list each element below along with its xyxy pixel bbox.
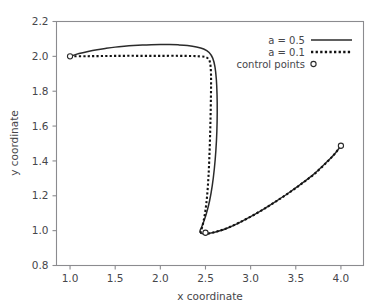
control-point-1: [67, 54, 72, 59]
y-tick-label-2.0: 2.0: [32, 50, 49, 62]
y-tick-label-1.4: 1.4: [32, 155, 49, 167]
x-tick-label-2.5: 2.5: [197, 272, 214, 284]
y-tick-label-2.2: 2.2: [32, 15, 49, 27]
x-axis-ticks: [70, 266, 341, 270]
legend-label-1: a = 0.5: [268, 35, 305, 46]
y-tick-label-1.6: 1.6: [32, 120, 49, 132]
x-tick-label-4.0: 4.0: [333, 272, 350, 284]
chart-figure: 1.01.52.02.53.03.54.0 0.81.01.21.41.61.8…: [0, 0, 380, 308]
y-tick-label-1.8: 1.8: [32, 85, 49, 97]
chart-legend: a = 0.5a = 0.1control points: [236, 35, 352, 70]
data-series-layer: [70, 44, 341, 233]
x-axis-title: x coordinate: [177, 290, 243, 302]
legend-label-2: a = 0.1: [268, 47, 305, 58]
control-points-layer: [67, 54, 343, 236]
control-point-3: [338, 143, 343, 148]
y-tick-label-1.2: 1.2: [32, 189, 49, 201]
legend-swatch-control-point-marker: [311, 61, 316, 66]
y-axis-tick-labels: 0.81.01.21.41.61.82.02.2: [32, 15, 49, 271]
x-tick-label-3.5: 3.5: [287, 272, 304, 284]
y-tick-label-1.0: 1.0: [32, 224, 49, 236]
series-curve-dotted: [70, 56, 341, 234]
control-point-2: [203, 230, 208, 235]
x-tick-label-2.0: 2.0: [152, 272, 169, 284]
legend-label-3: control points: [236, 59, 305, 70]
y-axis-title: y coordinate: [8, 110, 20, 176]
x-tick-label-3.0: 3.0: [242, 272, 259, 284]
y-axis-ticks: [53, 22, 57, 266]
y-tick-label-0.8: 0.8: [32, 259, 49, 271]
x-tick-label-1.5: 1.5: [107, 272, 124, 284]
axes-frame: [57, 22, 364, 266]
chart-canvas: 1.01.52.02.53.03.54.0 0.81.01.21.41.61.8…: [0, 0, 380, 308]
x-axis-tick-labels: 1.01.52.02.53.03.54.0: [62, 272, 350, 284]
x-tick-label-1.0: 1.0: [62, 272, 79, 284]
